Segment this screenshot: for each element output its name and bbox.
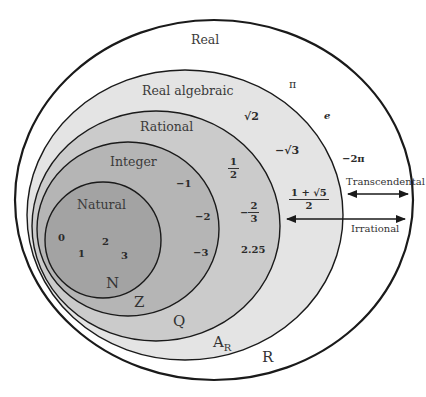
golden-denominator: 2 bbox=[305, 200, 312, 211]
real-set-label: Real bbox=[191, 32, 219, 47]
golden-numerator: 1 + √5 bbox=[289, 188, 329, 200]
irrational-label: Irrational bbox=[351, 223, 399, 234]
real-element-pi: π bbox=[289, 78, 296, 91]
integer-set-label: Integer bbox=[110, 154, 157, 169]
integer-element-neg3: −3 bbox=[193, 247, 208, 258]
transcendental-label: Transcendental bbox=[346, 176, 425, 187]
natural-set-label: Natural bbox=[77, 197, 126, 212]
natural-element-0: 0 bbox=[58, 232, 65, 243]
rational-element-half: 12 bbox=[228, 156, 239, 180]
real-element-neg-two-pi: −2π bbox=[342, 153, 365, 164]
algebraic-element-neg-sqrt3: −√3 bbox=[275, 144, 299, 157]
integer-element-neg2: −2 bbox=[195, 211, 210, 222]
integer-symbol: Z bbox=[134, 293, 144, 311]
rational-symbol: Q bbox=[173, 312, 185, 330]
real-symbol: R bbox=[262, 348, 273, 366]
rational-set-label: Rational bbox=[140, 119, 193, 134]
half-numerator: 1 bbox=[228, 157, 239, 169]
natural-element-3: 3 bbox=[121, 250, 128, 261]
real-algebraic-symbol-main: A bbox=[213, 333, 224, 351]
neg-two-thirds-numerator: 2 bbox=[248, 201, 259, 213]
natural-element-2: 2 bbox=[102, 236, 109, 247]
rational-element-decimal: 2.25 bbox=[241, 244, 265, 255]
algebraic-element-sqrt2: √2 bbox=[244, 110, 259, 123]
rational-element-neg-two-thirds: −23 bbox=[240, 201, 259, 224]
integer-element-neg1: −1 bbox=[176, 178, 191, 189]
real-element-e: e bbox=[324, 110, 330, 121]
algebraic-element-golden-ratio: 1 + √52 bbox=[289, 187, 329, 211]
real-algebraic-symbol: AR bbox=[213, 333, 231, 351]
half-denominator: 2 bbox=[230, 169, 237, 180]
real-algebraic-symbol-sub: R bbox=[224, 342, 232, 353]
natural-element-1: 1 bbox=[78, 248, 85, 259]
neg-two-thirds-sign: − bbox=[240, 207, 248, 218]
natural-symbol: N bbox=[106, 274, 119, 292]
real-algebraic-set-label: Real algebraic bbox=[142, 83, 234, 98]
neg-two-thirds-denominator: 3 bbox=[250, 213, 257, 224]
